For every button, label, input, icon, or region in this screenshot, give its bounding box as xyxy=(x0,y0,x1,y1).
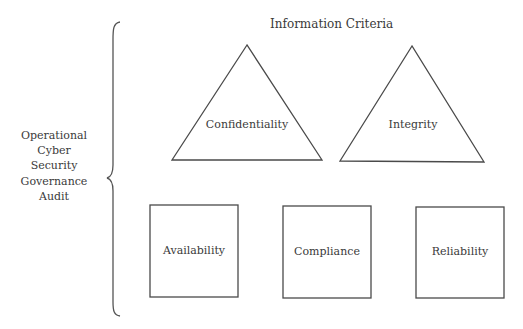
left-label-line: Security xyxy=(8,158,100,173)
information-criteria-diagram: Information Criteria Operational Cyber S… xyxy=(0,0,523,329)
box-label-compliance: Compliance xyxy=(294,245,360,258)
diagram-title: Information Criteria xyxy=(270,17,380,31)
triangle-label-confidentiality: Confidentiality xyxy=(206,118,288,131)
box-label-availability: Availability xyxy=(163,244,225,257)
left-label-line: Governance xyxy=(8,174,100,189)
left-label-line: Operational xyxy=(8,128,100,143)
triangle-confidentiality xyxy=(172,45,322,160)
box-label-reliability: Reliability xyxy=(432,245,489,258)
left-group-label: Operational Cyber Security Governance Au… xyxy=(8,128,100,204)
triangle-label-integrity: Integrity xyxy=(389,118,438,131)
left-label-line: Audit xyxy=(8,189,100,204)
triangle-integrity xyxy=(340,46,484,162)
left-label-line: Cyber xyxy=(8,143,100,158)
curly-brace xyxy=(107,22,120,316)
